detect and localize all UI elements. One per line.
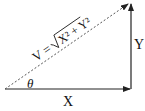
resultant-radicand: X² + Y² (55, 14, 94, 47)
x-label: X (63, 94, 73, 109)
y-label: Y (134, 37, 144, 52)
resultant-formula: V = X² + Y² (29, 13, 94, 64)
resultant-lhs: V = (29, 41, 54, 65)
resultant-vector-dashed-arrow (5, 4, 128, 89)
vector-diagram: θ X Y V = X² + Y² (0, 0, 145, 111)
angle-theta-label: θ (27, 76, 34, 91)
